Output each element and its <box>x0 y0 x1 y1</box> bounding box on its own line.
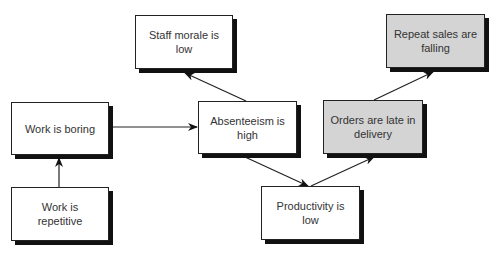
node-repeat-sales: Repeat sales are falling <box>386 14 485 68</box>
node-work-boring: Work is boring <box>11 102 109 155</box>
node-label: Productivity is low <box>268 199 353 227</box>
node-orders-late: Orders are late in delivery <box>323 100 423 154</box>
arrow-productivity-to-orders <box>311 157 374 186</box>
node-work-repetitive: Work is repetitive <box>11 187 109 241</box>
node-label: Repeat sales are falling <box>393 27 478 55</box>
arrow-orders-to-repeat-sales <box>374 72 433 100</box>
node-staff-morale: Staff morale is low <box>135 15 233 69</box>
node-absenteeism: Absenteeism is high <box>198 101 297 154</box>
arrow-absenteeism-to-morale <box>185 73 246 101</box>
node-productivity: Productivity is low <box>261 186 360 240</box>
node-label: Absenteeism is high <box>205 114 290 142</box>
node-label: Work is boring <box>25 122 95 136</box>
node-label: Orders are late in delivery <box>330 113 416 141</box>
node-label: Work is repetitive <box>18 200 102 228</box>
arrow-absenteeism-to-productivity <box>245 157 308 186</box>
node-label: Staff morale is low <box>142 28 226 56</box>
